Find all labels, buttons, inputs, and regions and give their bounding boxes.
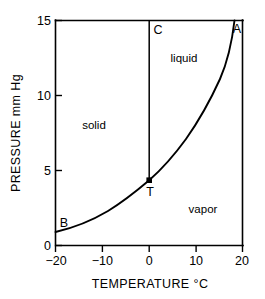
x-tick-label-20: 20 bbox=[235, 254, 249, 268]
x-tick-label-0: 0 bbox=[146, 254, 153, 268]
y-tick-label-5: 5 bbox=[44, 164, 51, 178]
y-axis-title: PRESSURE mm Hg bbox=[9, 74, 23, 192]
region-label-solid: solid bbox=[82, 119, 106, 131]
x-tick-labels: −20 −10 0 10 20 bbox=[45, 254, 249, 268]
point-label-t: T bbox=[146, 185, 154, 199]
region-label-liquid: liquid bbox=[171, 52, 198, 64]
x-axis-title: TEMPERATURE °C bbox=[92, 277, 209, 291]
x-axis-ticks bbox=[56, 246, 243, 253]
y-tick-label-15: 15 bbox=[37, 14, 51, 28]
phase-diagram-plot: 0 5 10 15 −20 −10 0 10 20 TEMPERATURE °C… bbox=[0, 0, 265, 299]
point-label-b: B bbox=[60, 216, 68, 230]
x-tick-label-10: 10 bbox=[189, 254, 203, 268]
y-axis-ticks bbox=[56, 21, 63, 246]
phase-diagram-figure: 0 5 10 15 −20 −10 0 10 20 TEMPERATURE °C… bbox=[0, 0, 265, 299]
x-tick-label-minus20: −20 bbox=[45, 254, 66, 268]
region-label-vapor: vapor bbox=[189, 203, 218, 215]
point-label-a: A bbox=[233, 22, 242, 36]
triple-point-marker bbox=[146, 177, 152, 183]
x-tick-label-minus10: −10 bbox=[92, 254, 113, 268]
y-tick-label-10: 10 bbox=[37, 89, 51, 103]
y-tick-labels: 0 5 10 15 bbox=[37, 14, 51, 253]
point-label-c: C bbox=[153, 23, 162, 37]
y-tick-label-0: 0 bbox=[44, 239, 51, 253]
